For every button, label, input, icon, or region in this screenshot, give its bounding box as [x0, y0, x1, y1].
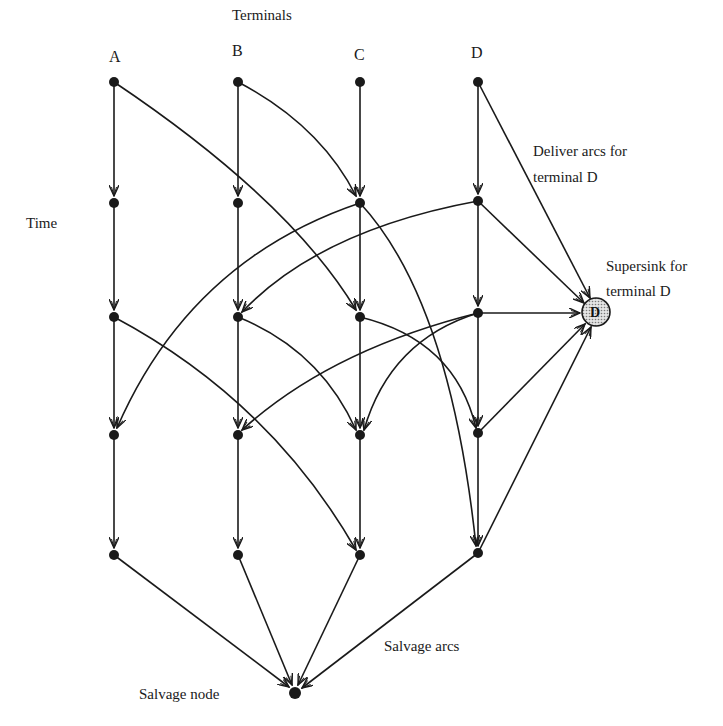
salvage-node-label: Salvage node	[139, 686, 220, 702]
supersink-label-2: terminal D	[606, 283, 671, 299]
node-a4	[109, 550, 119, 560]
movement-arcs	[114, 82, 478, 550]
supersink-label-1: Supersink for	[606, 258, 687, 274]
node-c2	[355, 312, 365, 322]
node-c3	[355, 430, 365, 440]
terminal-label-c: C	[354, 46, 365, 63]
supersink-node: D	[582, 298, 610, 326]
node-b3	[233, 430, 243, 440]
node-b2	[233, 312, 243, 322]
node-c1	[355, 198, 365, 208]
terminals-title: Terminals	[232, 7, 292, 23]
terminal-label-a: A	[109, 48, 121, 65]
node-d1	[473, 196, 483, 206]
node-d0	[473, 77, 483, 87]
terminal-label-b: B	[232, 42, 243, 59]
salvage-arcs-label: Salvage arcs	[384, 638, 460, 654]
supersink-node-label: D	[590, 305, 600, 320]
salvage-node	[289, 687, 301, 699]
deliver-arcs-label-1: Deliver arcs for	[533, 143, 627, 159]
node-a0	[109, 77, 119, 87]
node-d2	[473, 308, 483, 318]
node-c4	[355, 550, 365, 560]
terminal-label-d: D	[471, 44, 483, 61]
deliver-arcs-label-2: terminal D	[533, 169, 598, 185]
time-axis-label: Time	[26, 215, 57, 231]
node-d4	[473, 548, 483, 558]
node-b0	[233, 77, 243, 87]
node-b1	[233, 198, 243, 208]
node-c0	[355, 77, 365, 87]
node-a1	[109, 198, 119, 208]
holdover-arcs	[114, 82, 478, 548]
salvage-arcs	[114, 553, 478, 688]
node-d3	[473, 428, 483, 438]
time-space-network-diagram: Terminals A B C D Time Deliver arcs for …	[0, 0, 723, 726]
node-a2	[109, 312, 119, 322]
node-a3	[109, 430, 119, 440]
node-b4	[233, 550, 243, 560]
